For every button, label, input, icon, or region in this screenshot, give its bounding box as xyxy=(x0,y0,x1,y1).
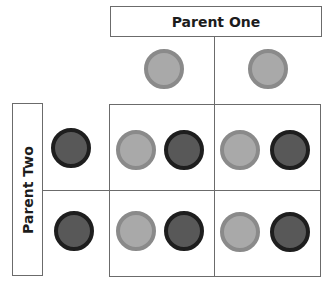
parent-one-label: Parent One xyxy=(172,14,261,30)
offspring-r1c1-allele-1 xyxy=(116,130,156,170)
offspring-r1c2-allele-1 xyxy=(220,130,260,170)
parent-one-allele-2 xyxy=(248,49,288,89)
parent-two-allele-2 xyxy=(54,211,94,251)
grid-horizontal-divider xyxy=(109,190,321,191)
parent-one-allele-1 xyxy=(144,49,184,89)
parent-two-label-box: Parent Two xyxy=(12,103,43,276)
offspring-r2c2-allele-1 xyxy=(220,212,260,252)
parent-two-label: Parent Two xyxy=(20,146,36,234)
parent-two-allele-1 xyxy=(51,128,91,168)
parent-two-divider xyxy=(43,190,109,191)
offspring-r2c1-allele-2 xyxy=(164,211,204,251)
offspring-r1c1-allele-2 xyxy=(164,130,204,170)
parent-one-divider xyxy=(214,37,215,104)
offspring-r2c2-allele-2 xyxy=(270,212,310,252)
offspring-r2c1-allele-1 xyxy=(116,211,156,251)
offspring-r1c2-allele-2 xyxy=(270,130,310,170)
parent-one-label-box: Parent One xyxy=(110,6,322,37)
